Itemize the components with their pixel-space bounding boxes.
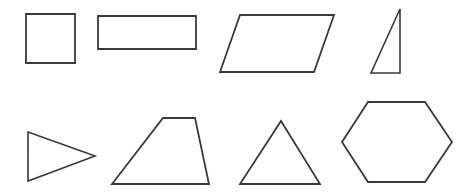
shape-isosceles-triangle	[240, 121, 320, 184]
shape-square	[26, 14, 75, 63]
shape-trapezoid	[112, 118, 209, 184]
shape-rectangle	[98, 16, 196, 49]
shape-right-pointing-triangle	[28, 132, 95, 181]
shapes-figure	[0, 0, 459, 192]
shape-right-triangle	[371, 9, 400, 73]
shape-parallelogram	[220, 15, 334, 72]
shape-hexagon	[342, 102, 452, 182]
shapes-canvas	[0, 0, 459, 192]
